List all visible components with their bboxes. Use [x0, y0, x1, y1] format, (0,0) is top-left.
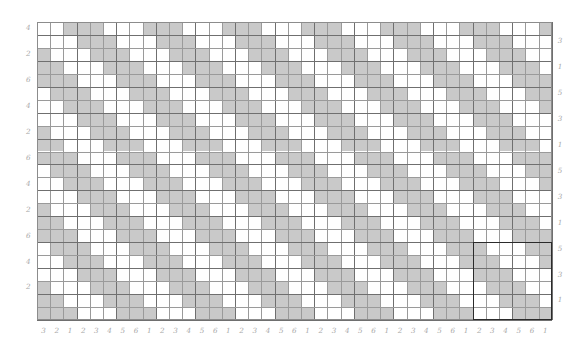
drawdown-cell[interactable]: [129, 126, 142, 139]
drawdown-cell[interactable]: [103, 164, 116, 177]
drawdown-cell[interactable]: [473, 87, 486, 100]
drawdown-cell[interactable]: [248, 139, 261, 152]
drawdown-cell[interactable]: [380, 177, 393, 190]
drawdown-cell[interactable]: [499, 268, 512, 281]
drawdown-cell[interactable]: [90, 100, 103, 113]
drawdown-cell[interactable]: [367, 22, 380, 35]
drawdown-cell[interactable]: [327, 255, 340, 268]
drawdown-cell[interactable]: [90, 126, 103, 139]
drawdown-cell[interactable]: [50, 164, 63, 177]
drawdown-cell[interactable]: [525, 255, 538, 268]
drawdown-cell[interactable]: [235, 113, 248, 126]
drawdown-cell[interactable]: [380, 255, 393, 268]
drawdown-cell[interactable]: [433, 177, 446, 190]
drawdown-cell[interactable]: [195, 255, 208, 268]
drawdown-cell[interactable]: [327, 87, 340, 100]
drawdown-cell[interactable]: [420, 126, 433, 139]
drawdown-cell[interactable]: [314, 190, 327, 203]
drawdown-cell[interactable]: [222, 126, 235, 139]
drawdown-cell[interactable]: [209, 48, 222, 61]
drawdown-cell[interactable]: [90, 190, 103, 203]
drawdown-cell[interactable]: [103, 139, 116, 152]
drawdown-cell[interactable]: [473, 139, 486, 152]
drawdown-cell[interactable]: [539, 242, 552, 255]
drawdown-cell[interactable]: [512, 229, 525, 242]
drawdown-cell[interactable]: [367, 48, 380, 61]
drawdown-cell[interactable]: [143, 307, 156, 320]
drawdown-cell[interactable]: [341, 152, 354, 165]
drawdown-cell[interactable]: [261, 139, 274, 152]
drawdown-cell[interactable]: [63, 126, 76, 139]
drawdown-cell[interactable]: [195, 190, 208, 203]
drawdown-cell[interactable]: [143, 242, 156, 255]
drawdown-cell[interactable]: [195, 139, 208, 152]
drawdown-cell[interactable]: [446, 307, 459, 320]
drawdown-cell[interactable]: [156, 61, 169, 74]
drawdown-cell[interactable]: [222, 139, 235, 152]
drawdown-cell[interactable]: [433, 113, 446, 126]
drawdown-cell[interactable]: [209, 139, 222, 152]
drawdown-cell[interactable]: [354, 126, 367, 139]
drawdown-cell[interactable]: [446, 48, 459, 61]
drawdown-cell[interactable]: [235, 281, 248, 294]
drawdown-cell[interactable]: [235, 22, 248, 35]
drawdown-cell[interactable]: [222, 216, 235, 229]
drawdown-cell[interactable]: [288, 281, 301, 294]
drawdown-cell[interactable]: [499, 164, 512, 177]
drawdown-cell[interactable]: [512, 164, 525, 177]
drawdown-cell[interactable]: [103, 48, 116, 61]
drawdown-cell[interactable]: [354, 294, 367, 307]
drawdown-cell[interactable]: [314, 48, 327, 61]
drawdown-cell[interactable]: [261, 216, 274, 229]
drawdown-cell[interactable]: [301, 307, 314, 320]
drawdown-cell[interactable]: [222, 22, 235, 35]
drawdown-cell[interactable]: [77, 74, 90, 87]
drawdown-cell[interactable]: [539, 216, 552, 229]
drawdown-cell[interactable]: [512, 294, 525, 307]
drawdown-cell[interactable]: [380, 229, 393, 242]
drawdown-cell[interactable]: [433, 281, 446, 294]
drawdown-cell[interactable]: [261, 255, 274, 268]
drawdown-cell[interactable]: [288, 203, 301, 216]
drawdown-cell[interactable]: [235, 126, 248, 139]
drawdown-cell[interactable]: [301, 255, 314, 268]
drawdown-cell[interactable]: [261, 61, 274, 74]
drawdown-cell[interactable]: [380, 152, 393, 165]
drawdown-cell[interactable]: [116, 113, 129, 126]
drawdown-cell[interactable]: [50, 255, 63, 268]
drawdown-cell[interactable]: [116, 177, 129, 190]
drawdown-cell[interactable]: [129, 294, 142, 307]
drawdown-cell[interactable]: [341, 113, 354, 126]
drawdown-cell[interactable]: [77, 152, 90, 165]
drawdown-cell[interactable]: [407, 177, 420, 190]
drawdown-cell[interactable]: [420, 190, 433, 203]
drawdown-cell[interactable]: [182, 164, 195, 177]
drawdown-cell[interactable]: [525, 100, 538, 113]
drawdown-cell[interactable]: [433, 74, 446, 87]
drawdown-cell[interactable]: [209, 87, 222, 100]
drawdown-cell[interactable]: [63, 22, 76, 35]
drawdown-cell[interactable]: [341, 177, 354, 190]
drawdown-cell[interactable]: [275, 126, 288, 139]
drawdown-cell[interactable]: [90, 242, 103, 255]
drawdown-cell[interactable]: [209, 268, 222, 281]
drawdown-cell[interactable]: [90, 22, 103, 35]
drawdown-cell[interactable]: [156, 242, 169, 255]
drawdown-cell[interactable]: [486, 268, 499, 281]
drawdown-cell[interactable]: [499, 281, 512, 294]
drawdown-cell[interactable]: [37, 152, 50, 165]
drawdown-cell[interactable]: [512, 203, 525, 216]
drawdown-cell[interactable]: [407, 255, 420, 268]
drawdown-cell[interactable]: [261, 164, 274, 177]
drawdown-cell[interactable]: [420, 294, 433, 307]
drawdown-cell[interactable]: [367, 294, 380, 307]
drawdown-cell[interactable]: [525, 48, 538, 61]
drawdown-cell[interactable]: [420, 139, 433, 152]
drawdown-cell[interactable]: [525, 216, 538, 229]
drawdown-cell[interactable]: [314, 294, 327, 307]
drawdown-cell[interactable]: [354, 177, 367, 190]
drawdown-cell[interactable]: [327, 268, 340, 281]
drawdown-cell[interactable]: [420, 152, 433, 165]
drawdown-cell[interactable]: [129, 152, 142, 165]
drawdown-cell[interactable]: [169, 164, 182, 177]
